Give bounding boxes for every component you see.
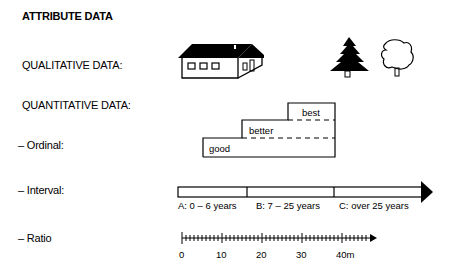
interval-class-c: C: over 25 years [339, 200, 409, 211]
ratio-tick-0: 0 [179, 249, 184, 260]
ordinal-step-good: good [209, 143, 230, 154]
arrow-head-icon [421, 181, 433, 203]
ratio-tick-20: 20 [256, 249, 267, 260]
ratio-ruler [182, 232, 377, 244]
diagram-graphics [0, 0, 456, 274]
house-icon [178, 44, 264, 78]
arrow-head-icon [370, 234, 377, 242]
ordinal-step-better: better [249, 125, 273, 136]
ratio-tick-30: 30 [296, 249, 307, 260]
interval-class-a: A: 0 – 6 years [178, 200, 237, 211]
ratio-tick-40m: 40m [336, 249, 354, 260]
ordinal-step-best: best [302, 107, 320, 118]
conifer-tree-icon [330, 37, 369, 77]
deciduous-tree-icon [382, 40, 414, 76]
interval-class-b: B: 7 – 25 years [256, 200, 320, 211]
ratio-tick-10: 10 [216, 249, 227, 260]
